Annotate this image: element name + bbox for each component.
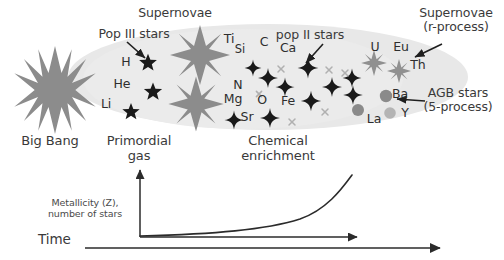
callout-supernovae-top: Supernovae [138, 6, 212, 20]
element-label-u: U [370, 40, 379, 54]
graph-y-axis-label-line2: number of stars [48, 209, 122, 220]
element-label-n: N [233, 78, 242, 92]
callout-supernovae-r-process: Supernovae (r-process) [419, 6, 493, 34]
element-label-sr: Sr [241, 110, 254, 124]
graph-y-axis-label: Metallicity (Z), number of stars [48, 198, 122, 219]
element-label-o: O [257, 93, 267, 107]
callout-supernovae-r-process-line2: (r-process) [419, 20, 493, 34]
metallicity-curve [140, 175, 352, 236]
element-label-fe: Fe [281, 94, 295, 108]
element-label-th: Th [410, 58, 425, 72]
agb-circle-la [352, 104, 364, 116]
phase-label-primordial-gas: Primordial gas [107, 134, 172, 163]
callout-agb-stars-line1: AGB stars [423, 86, 492, 100]
element-label-li: Li [101, 97, 111, 111]
diagram-graphics [0, 0, 504, 260]
time-axis-label: Time [38, 232, 71, 247]
r-process-star-th [387, 59, 411, 83]
element-label-ba: Ba [392, 87, 408, 101]
element-label-ca: Ca [280, 41, 296, 55]
element-label-si: Si [235, 43, 245, 56]
phase-primordial-gas-line1: Primordial [107, 134, 172, 149]
callout-agb-stars: AGB stars (5-process) [423, 86, 492, 114]
callout-agb-stars-line2: (5-process) [423, 100, 492, 114]
element-label-ti: Ti [224, 32, 235, 46]
phase-primordial-gas-line2: gas [107, 149, 172, 164]
phase-chemical-enrichment-line1: Chemical [241, 134, 315, 149]
phase-label-chemical-enrichment: Chemical enrichment [241, 134, 315, 163]
supernova-star-large-1 [170, 25, 230, 85]
phase-label-big-bang: Big Bang [21, 134, 79, 149]
element-label-h: H [121, 55, 130, 69]
agb-circle-y [384, 107, 396, 119]
agb-circle-ba [380, 90, 392, 102]
phase-chemical-enrichment-line2: enrichment [241, 149, 315, 164]
callout-pop-iii-stars: Pop III stars [98, 27, 169, 41]
element-label-eu: Eu [393, 40, 409, 54]
supernova-star-large-2 [168, 76, 223, 131]
element-label-mg: Mg [224, 92, 243, 106]
diagram-canvas: Supernovae Pop III stars pop II stars Su… [0, 0, 504, 260]
callout-supernovae-r-process-line1: Supernovae [419, 6, 493, 20]
element-label-y: Y [401, 106, 409, 120]
element-label-he: He [114, 77, 131, 91]
element-label-la: La [367, 112, 381, 126]
element-label-c: C [260, 35, 269, 49]
